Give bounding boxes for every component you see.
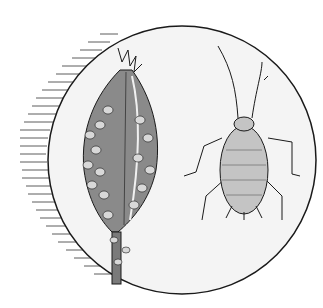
aphid-illustration bbox=[0, 0, 323, 308]
